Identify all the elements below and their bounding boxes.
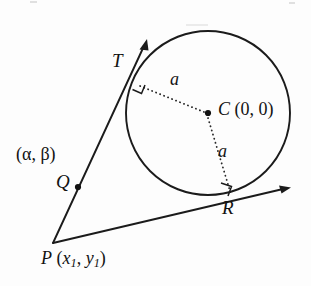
point-dot-center — [205, 110, 211, 116]
label-point-Q: Q — [56, 172, 70, 191]
arrowhead-tangent-R-icon — [279, 186, 291, 194]
label-point-P-paren-close: ) — [100, 248, 106, 268]
tangent-line-PT — [53, 46, 144, 243]
arrowhead-tangent-T-icon — [140, 39, 149, 51]
label-point-P-comma: , — [77, 248, 86, 268]
label-point-P-y: y — [86, 248, 94, 268]
point-dot-Q — [75, 184, 81, 190]
tangent-line-PR — [53, 189, 283, 243]
label-point-Q-coords: (α, β) — [16, 145, 56, 163]
label-radius-upper-a: a — [170, 70, 179, 88]
diagram-canvas — [0, 0, 311, 286]
right-angle-mark-T-icon — [133, 85, 146, 94]
label-point-P: P (x1, y1) — [41, 249, 106, 270]
label-point-T: T — [112, 51, 123, 70]
label-point-P-letter: P — [41, 248, 52, 268]
geometry-figure: T a a C (0, 0) (α, β) Q R P (x1, y1) — [0, 0, 311, 286]
label-center-coords: (0, 0) — [235, 99, 274, 119]
label-center-letter: C — [218, 99, 230, 119]
radius-segment-CT — [140, 86, 204, 112]
label-point-R: R — [222, 198, 234, 217]
label-radius-lower-a: a — [218, 142, 227, 160]
label-point-P-x: x — [63, 248, 71, 268]
label-center-C: C (0, 0) — [218, 100, 274, 118]
